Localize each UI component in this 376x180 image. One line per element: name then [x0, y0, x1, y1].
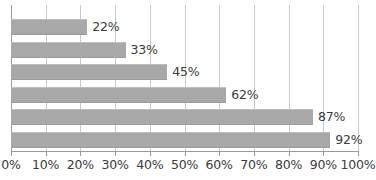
x-tick-label: 40% [136, 156, 163, 174]
x-tick-label: 100% [341, 156, 376, 174]
bar-row: 62% [11, 87, 358, 103]
x-tick-label: 20% [67, 156, 94, 174]
x-tick-label: 50% [171, 156, 198, 174]
x-tick-label: 80% [275, 156, 302, 174]
x-tick-mark [289, 151, 290, 156]
x-tick-mark [358, 151, 359, 156]
x-tick-label: 30% [102, 156, 129, 174]
x-tick-label: 90% [310, 156, 337, 174]
bar-value-label: 87% [318, 107, 345, 126]
bar-row: 33% [11, 42, 358, 58]
bar-row: 45% [11, 64, 358, 80]
x-tick-label: 70% [240, 156, 267, 174]
bar[interactable] [11, 42, 126, 58]
x-tick-mark [219, 151, 220, 156]
bar-value-label: 45% [172, 62, 199, 81]
bar-row: 87% [11, 109, 358, 125]
x-tick-mark [115, 151, 116, 156]
x-axis-tick-labels: 0%10%20%30%40%50%60%70%80%90%100% [0, 156, 376, 178]
bar-value-label: 33% [131, 40, 158, 59]
x-tick-mark [323, 151, 324, 156]
bar[interactable] [11, 19, 87, 35]
x-tick-mark [46, 151, 47, 156]
x-tick-mark [185, 151, 186, 156]
bar-row: 22% [11, 19, 358, 35]
bar-value-label: 62% [231, 85, 258, 104]
x-tick-mark [150, 151, 151, 156]
bar-row: 92% [11, 132, 358, 148]
bar[interactable] [11, 64, 167, 80]
x-tick-label: 60% [206, 156, 233, 174]
x-tick-mark [80, 151, 81, 156]
x-tick-mark [254, 151, 255, 156]
bar[interactable] [11, 132, 330, 148]
bars-layer: 22%33%45%62%87%92% [11, 5, 358, 151]
bar-chart: 22%33%45%62%87%92% 0%10%20%30%40%50%60%7… [0, 0, 376, 180]
x-tick-label: 10% [32, 156, 59, 174]
bar-value-label: 92% [335, 130, 362, 149]
x-tick-mark [11, 151, 12, 156]
x-tick-label: 0% [1, 156, 20, 174]
bar[interactable] [11, 87, 226, 103]
bar[interactable] [11, 109, 313, 125]
bar-value-label: 22% [92, 17, 119, 36]
